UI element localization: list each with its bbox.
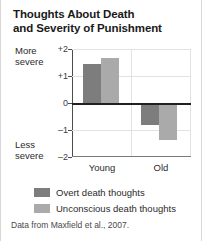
- y-tick-label-1: +1: [48, 72, 68, 81]
- title-line-1: Thoughts About Death: [13, 8, 193, 22]
- x-category-label-young: Young: [72, 163, 132, 173]
- legend-item-overt: Overt death thoughts: [34, 186, 176, 199]
- page-title: Thoughts About Death and Severity of Pun…: [13, 8, 193, 35]
- legend-swatch-overt-icon: [34, 188, 50, 197]
- bar-young-unconscious: [101, 58, 119, 103]
- title-line-2: and Severity of Punishment: [13, 22, 193, 36]
- y-tick-label-2: +2: [48, 45, 68, 54]
- legend: Overt death thoughts Unconscious death t…: [34, 186, 176, 218]
- bar-young-overt: [83, 64, 101, 103]
- legend-item-unconscious: Unconscious death thoughts: [34, 202, 176, 215]
- bar-old-unconscious: [159, 103, 177, 140]
- legend-label-overt: Overt death thoughts: [56, 188, 145, 198]
- source-note: Data from Maxfield et al., 2007.: [11, 220, 129, 230]
- legend-swatch-unconscious-icon: [34, 204, 50, 213]
- x-category-label-old: Old: [131, 163, 191, 173]
- bar-old-overt: [141, 103, 159, 125]
- y-tick-mark-neg2: [68, 157, 72, 158]
- x-axis-line: [72, 156, 191, 157]
- figure-container: Thoughts About Death and Severity of Pun…: [0, 0, 202, 241]
- zero-baseline: [72, 103, 191, 105]
- y-tick-label-neg2: –2: [48, 153, 68, 162]
- y-tick-label-0: 0: [48, 99, 68, 108]
- y-tick-label-neg1: –1: [48, 126, 68, 135]
- legend-label-unconscious: Unconscious death thoughts: [56, 204, 176, 214]
- plot-area: [72, 49, 191, 157]
